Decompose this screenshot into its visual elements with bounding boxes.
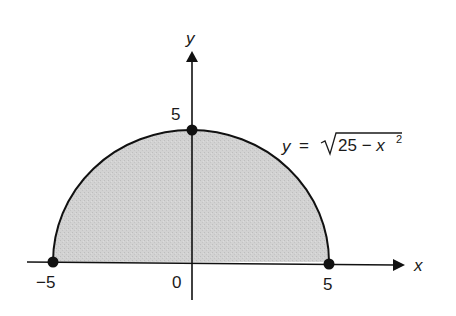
point-0-5 [187, 125, 198, 136]
equation-label: y = 25 − x 2 [281, 133, 402, 156]
equation-radicand: 25 − x [338, 136, 385, 155]
equation-equals: = [299, 136, 309, 155]
tick-y-5: 5 [171, 105, 180, 124]
y-axis-arrow-icon [186, 51, 198, 62]
point-neg5-0 [48, 257, 59, 268]
x-axis-arrow-icon [393, 259, 405, 271]
tick-x-5: 5 [323, 275, 332, 294]
equation-exponent: 2 [396, 133, 402, 145]
x-axis [27, 262, 396, 265]
tick-x-neg5: −5 [36, 273, 55, 292]
y-axis-label: y [185, 29, 196, 48]
point-5-0 [324, 259, 335, 270]
tick-origin: 0 [172, 273, 181, 292]
semicircle-diagram: y x 5 −5 0 5 y = 25 − x 2 [0, 0, 456, 316]
x-axis-label: x [413, 256, 423, 275]
equation-lhs: y [281, 137, 292, 156]
